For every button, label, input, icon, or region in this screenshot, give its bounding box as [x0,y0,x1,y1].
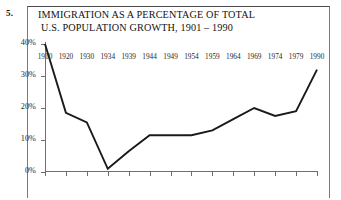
y-tick-label: 20% [21,102,36,111]
plot-area: 0%10%20%30%40% 1910192019301934193919441… [45,44,317,172]
y-tick-label: 0% [25,166,36,175]
y-tick-label: 40% [21,38,36,47]
chart-title: IMMIGRATION AS A PERCENTAGE OF TOTAL U.S… [38,9,308,34]
y-tick-label: 10% [21,134,36,143]
y-tick-label: 30% [21,70,36,79]
chart-title-line-1: IMMIGRATION AS A PERCENTAGE OF TOTAL [38,9,308,22]
question-number: 5. [6,8,13,18]
series-immigration-percentage [45,42,317,174]
figure-root: 5. IMMIGRATION AS A PERCENTAGE OF TOTAL … [0,0,341,200]
chart-title-line-2: U.S. POPULATION GROWTH, 1901 – 1990 [38,22,308,35]
